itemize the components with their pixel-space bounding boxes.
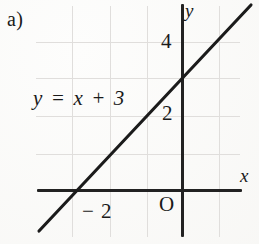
plotted-line-svg — [0, 0, 259, 244]
origin-label: O — [159, 194, 174, 215]
graph-figure: a) y = x + 3 y x 4 2 − 2 O — [0, 0, 259, 244]
y-tick-label-2: 2 — [162, 103, 173, 124]
equation-label: y = x + 3 — [33, 88, 126, 109]
y-tick-label-4: 4 — [161, 31, 172, 52]
line-y-equals-x-plus-3 — [39, 5, 251, 231]
y-axis-label: y — [185, 1, 193, 20]
item-label: a) — [7, 9, 23, 29]
x-axis-label: x — [240, 166, 248, 185]
x-tick-label-negative-2: − 2 — [82, 201, 113, 222]
